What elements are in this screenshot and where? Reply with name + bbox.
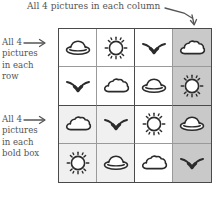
grid-cell-r3-c2[interactable] <box>135 144 173 182</box>
grid-cell-r3-c0[interactable] <box>59 144 97 182</box>
cloud-icon <box>177 33 207 63</box>
right-arrow-icon <box>23 115 49 125</box>
row-caption-line2: pictures <box>2 48 58 59</box>
box-caption-line2: pictures <box>2 125 58 136</box>
ufo-icon <box>63 33 93 63</box>
cloud-icon <box>101 71 131 101</box>
grid-cell-r0-c0[interactable] <box>59 29 97 67</box>
grid-cell-r1-c1[interactable] <box>97 67 135 105</box>
sun-icon <box>101 33 131 63</box>
grid-cell-r2-c1[interactable] <box>97 106 135 144</box>
grid-cell-r1-c2[interactable] <box>135 67 173 105</box>
box-caption-line1: All 4 <box>2 114 22 125</box>
cloud-icon <box>63 109 93 139</box>
grid-cell-r0-c1[interactable] <box>97 29 135 67</box>
grid-cell-r0-c2[interactable] <box>135 29 173 67</box>
sudoku-picture-grid <box>58 28 212 183</box>
sun-icon <box>63 148 93 178</box>
bird-icon <box>101 109 131 139</box>
box-caption-line3: in each <box>2 137 58 148</box>
grid-cell-r3-c3[interactable] <box>173 144 211 182</box>
row-caption-line1: All 4 <box>2 37 22 48</box>
grid-cell-r1-c0[interactable] <box>59 67 97 105</box>
grid-cell-r2-c3[interactable] <box>173 106 211 144</box>
bird-icon <box>177 148 207 178</box>
right-arrow-icon <box>23 38 49 48</box>
grid-cell-r2-c2[interactable] <box>135 106 173 144</box>
ufo-icon <box>177 109 207 139</box>
row-caption-line4: row <box>2 71 58 82</box>
grid-cell-r1-c3[interactable] <box>173 67 211 105</box>
ufo-icon <box>101 148 131 178</box>
grid-cell-r3-c1[interactable] <box>97 144 135 182</box>
box-caption-line4: bold box <box>2 148 58 159</box>
box-rule-caption: All 4 pictures in each bold box <box>2 114 58 159</box>
down-arrow-icon <box>164 4 200 26</box>
row-rule-caption: All 4 pictures in each row <box>2 37 58 82</box>
grid-cell-r0-c3[interactable] <box>173 29 211 67</box>
bird-icon <box>139 33 169 63</box>
sun-icon <box>177 71 207 101</box>
cloud-icon <box>139 148 169 178</box>
sun-icon <box>139 109 169 139</box>
ufo-icon <box>139 71 169 101</box>
row-caption-line3: in each <box>2 60 58 71</box>
column-rule-caption: All 4 pictures in each column <box>27 1 160 12</box>
grid-cell-r2-c0[interactable] <box>59 106 97 144</box>
bird-icon <box>63 71 93 101</box>
